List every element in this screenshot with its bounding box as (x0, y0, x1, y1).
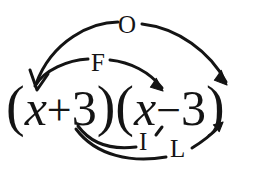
operator-minus: − (156, 86, 181, 135)
constant-3-1: 3 (72, 80, 97, 136)
binomial-expression: (x+3)(x−3) (6, 78, 225, 134)
foil-label-last: L (170, 136, 185, 161)
foil-label-first: F (91, 50, 105, 75)
foil-label-outer: O (118, 12, 136, 37)
right-paren-1: ) (97, 75, 116, 137)
left-paren-1: ( (6, 75, 25, 137)
operator-plus: + (47, 86, 72, 135)
foil-diagram: (x+3)(x−3) O F I L (0, 0, 262, 171)
foil-label-inner: I (139, 129, 147, 154)
left-paren-2: ( (115, 75, 134, 137)
constant-3-2: 3 (181, 80, 206, 136)
variable-x-1: x (25, 80, 47, 136)
right-paren-2: ) (206, 75, 225, 137)
